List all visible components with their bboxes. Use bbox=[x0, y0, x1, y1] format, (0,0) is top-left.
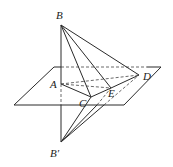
label-D: D bbox=[142, 70, 151, 82]
label-B-prime: B′ bbox=[50, 147, 60, 159]
label-E: E bbox=[107, 87, 115, 99]
upper-edges bbox=[61, 25, 139, 97]
label-C: C bbox=[79, 97, 87, 109]
label-A: A bbox=[49, 78, 57, 90]
plane-edges bbox=[61, 75, 139, 97]
geometry-figure: B B′ A C E D bbox=[0, 0, 173, 167]
figure-canvas: B B′ A C E D bbox=[0, 0, 173, 167]
label-B: B bbox=[56, 9, 63, 21]
